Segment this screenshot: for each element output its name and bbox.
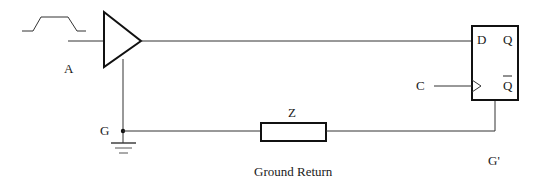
clock-label: C [416, 78, 425, 93]
qbar-pin-label: Q [503, 78, 513, 93]
input-waveform [22, 17, 86, 31]
input-label: A [64, 61, 74, 76]
impedance-label: Z [288, 105, 296, 120]
ground-icon [111, 143, 136, 153]
impedance-resistor [261, 123, 326, 141]
caption: Ground Return [254, 164, 333, 179]
remote-ground-label: G' [488, 153, 500, 168]
data-pin-label: D [477, 32, 486, 47]
ground-node-label: G [100, 123, 109, 138]
buffer-amplifier [104, 12, 141, 67]
circuit-diagram: A D Q Q C G Z G' Ground Return [0, 0, 535, 183]
ground-return-wire-right [326, 100, 495, 131]
q-pin-label: Q [503, 32, 513, 47]
